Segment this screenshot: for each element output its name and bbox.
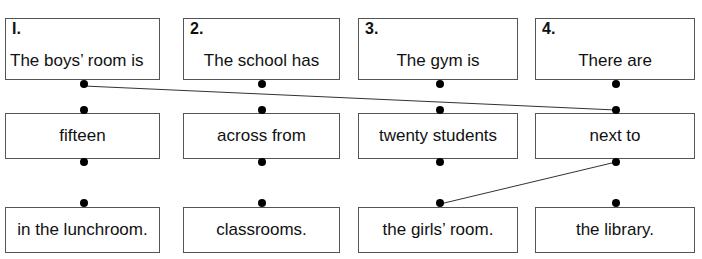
prompt-number-4: 4.	[542, 20, 555, 37]
prompt-phrase-1: The boys’ room is	[6, 51, 159, 71]
bottom-card-3[interactable]: the girls’ room.	[358, 207, 518, 253]
middle-phrase-3: twenty students	[359, 126, 517, 146]
middle-phrase-2: across from	[184, 126, 339, 146]
prompt-phrase-2: The school has	[184, 51, 339, 71]
dot-middle-4-bottom[interactable]	[612, 158, 620, 166]
dot-bottom-2-top[interactable]	[258, 199, 266, 207]
prompt-card-3[interactable]: 3.The gym is	[358, 18, 518, 80]
bottom-phrase-1: in the lunchroom.	[6, 220, 159, 240]
dot-middle-1-top[interactable]	[80, 106, 88, 114]
dot-prompt-4-bottom[interactable]	[612, 80, 620, 88]
dot-prompt-1-bottom[interactable]	[80, 80, 88, 88]
line-prompt1-to-nextto	[84, 86, 616, 110]
dot-middle-3-bottom[interactable]	[436, 158, 444, 166]
prompt-number-2: 2.	[190, 20, 203, 37]
line-nextto-to-girlsroom	[440, 162, 616, 204]
dot-bottom-3-top[interactable]	[436, 199, 444, 207]
dot-middle-4-top[interactable]	[612, 106, 620, 114]
middle-card-2[interactable]: across from	[183, 113, 340, 159]
prompt-card-2[interactable]: 2.The school has	[183, 18, 340, 80]
bottom-phrase-3: the girls’ room.	[359, 220, 517, 240]
bottom-phrase-2: classrooms.	[184, 220, 339, 240]
dot-bottom-4-top[interactable]	[612, 199, 620, 207]
bottom-phrase-4: the library.	[536, 220, 694, 240]
bottom-card-1[interactable]: in the lunchroom.	[5, 207, 160, 253]
bottom-card-2[interactable]: classrooms.	[183, 207, 340, 253]
prompt-card-1[interactable]: I.The boys’ room is	[5, 18, 160, 80]
prompt-number-1: I.	[12, 20, 21, 37]
middle-phrase-1: fifteen	[6, 126, 159, 146]
prompt-card-4[interactable]: 4.There are	[535, 18, 695, 80]
dot-middle-2-bottom[interactable]	[258, 158, 266, 166]
dot-bottom-1-top[interactable]	[80, 199, 88, 207]
middle-card-1[interactable]: fifteen	[5, 113, 160, 159]
prompt-number-3: 3.	[365, 20, 378, 37]
middle-card-4[interactable]: next to	[535, 113, 695, 159]
dot-middle-1-bottom[interactable]	[80, 158, 88, 166]
dot-middle-3-top[interactable]	[436, 106, 444, 114]
middle-card-3[interactable]: twenty students	[358, 113, 518, 159]
dot-prompt-2-bottom[interactable]	[258, 80, 266, 88]
bottom-card-4[interactable]: the library.	[535, 207, 695, 253]
dot-middle-2-top[interactable]	[258, 106, 266, 114]
prompt-phrase-3: The gym is	[359, 51, 517, 71]
dot-prompt-3-bottom[interactable]	[436, 80, 444, 88]
matching-worksheet: I.The boys’ room is2.The school has3.The…	[0, 0, 702, 259]
middle-phrase-4: next to	[536, 126, 694, 146]
prompt-phrase-4: There are	[536, 51, 694, 71]
